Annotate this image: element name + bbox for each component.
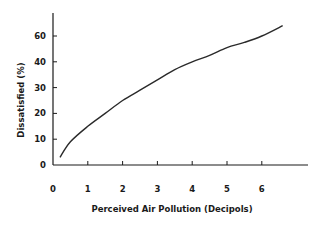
y-tick-label: 30 (34, 83, 46, 93)
line-chart: 01020304060 0123456 Perceived Air Pollut… (0, 0, 323, 225)
y-tick-label: 40 (34, 57, 46, 67)
data-series (60, 26, 283, 158)
y-tick-label: 60 (34, 31, 46, 41)
x-tick-label: 1 (85, 184, 91, 194)
y-axis-title: Dissatisfied (%) (16, 62, 26, 137)
y-tick-label: 0 (40, 160, 46, 170)
x-tick-label: 0 (50, 184, 56, 194)
y-tick-label: 10 (34, 134, 46, 144)
y-axis: 01020304060 (34, 13, 57, 170)
y-tick-label: 20 (34, 108, 46, 118)
x-tick-label: 4 (189, 184, 195, 194)
dissatisfied-curve (60, 26, 283, 158)
x-tick-label: 2 (120, 184, 126, 194)
x-axis-title: Perceived Air Pollution (Decipols) (91, 204, 252, 214)
x-tick-label: 3 (154, 184, 160, 194)
x-axis: 0123456 (50, 161, 308, 194)
x-tick-label: 5 (224, 184, 230, 194)
x-tick-label: 6 (259, 184, 265, 194)
